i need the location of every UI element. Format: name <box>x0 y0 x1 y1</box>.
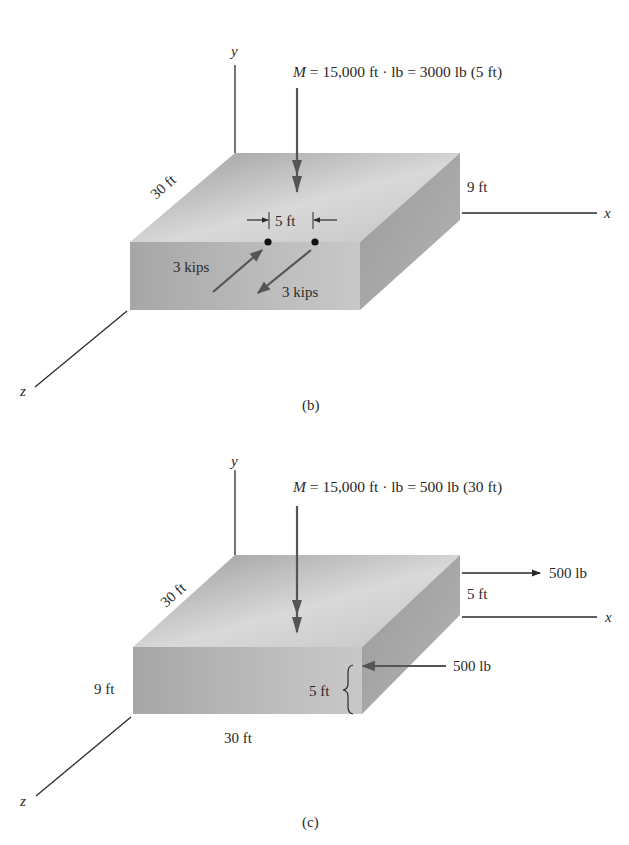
moment-equation: M = 15,000 ft · lb = 500 lb (30 ft) <box>292 478 502 496</box>
panel-c: y 500 lb 5 ft x z M = 15,000 ft · lb = 5… <box>19 453 612 831</box>
spacing-dimension: 5 ft <box>275 213 296 229</box>
force-point-left <box>264 238 271 245</box>
x-axis-label: x <box>603 205 611 221</box>
panel-b: y x z M = 15,000 ft · lb = 3000 lb (5 ft… <box>19 43 611 414</box>
upper-spacing-dimension: 5 ft <box>467 586 488 602</box>
box-front-face <box>133 647 362 714</box>
force-label-lower: 500 lb <box>453 658 491 674</box>
height-dimension: 9 ft <box>94 681 115 697</box>
width-dimension: 30 ft <box>224 730 253 746</box>
box-front-face <box>130 242 360 310</box>
moment-equation-text: = 15,000 ft · lb = 500 lb (30 ft) <box>306 478 502 496</box>
z-axis <box>35 311 127 387</box>
moment-equation-text: = 15,000 ft · lb = 3000 lb (5 ft) <box>306 63 502 81</box>
force-label-upper: 500 lb <box>549 565 587 581</box>
moment-equation: M = 15,000 ft · lb = 3000 lb (5 ft) <box>292 63 502 81</box>
z-axis <box>36 717 131 796</box>
moment-symbol: M <box>292 63 307 80</box>
moment-symbol: M <box>292 478 307 495</box>
depth-dimension: 30 ft <box>147 171 179 202</box>
x-axis-label: x <box>604 609 612 625</box>
force-label-front: 3 kips <box>282 284 318 300</box>
z-axis-label: z <box>19 793 26 809</box>
lower-spacing-dimension: 5 ft <box>309 683 330 699</box>
y-axis-label: y <box>229 43 238 59</box>
panel-caption: (b) <box>302 397 320 414</box>
y-axis-label: y <box>229 453 238 469</box>
statics-figure: y x z M = 15,000 ft · lb = 3000 lb (5 ft… <box>0 0 629 845</box>
z-axis-label: z <box>19 383 26 399</box>
force-point-right <box>311 238 318 245</box>
force-label-back: 3 kips <box>173 259 209 275</box>
panel-caption: (c) <box>302 814 319 831</box>
height-dimension: 9 ft <box>467 179 488 195</box>
